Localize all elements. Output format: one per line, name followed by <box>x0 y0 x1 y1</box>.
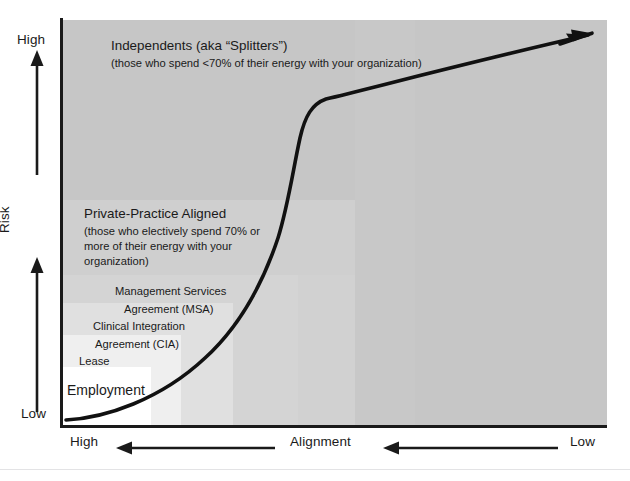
bottom-divider <box>0 469 630 470</box>
y-axis-title: Risk <box>0 206 12 233</box>
y-axis-label-low: Low <box>21 406 46 421</box>
x-axis-title: Alignment <box>290 434 351 449</box>
chart-page: Independents (aka “Splitters”) (those wh… <box>0 0 630 481</box>
x-axis-arrow-left <box>116 442 275 455</box>
risk-alignment-curve <box>66 30 592 421</box>
chart-overlay <box>0 0 630 481</box>
x-axis-label-low: Low <box>570 434 595 449</box>
x-axis-label-high: High <box>70 434 98 449</box>
y-axis-label-high: High <box>17 32 45 47</box>
y-axis-arrow-upper <box>31 50 44 175</box>
y-axis-arrow-lower <box>31 257 44 412</box>
x-axis-arrow-right <box>383 442 558 455</box>
